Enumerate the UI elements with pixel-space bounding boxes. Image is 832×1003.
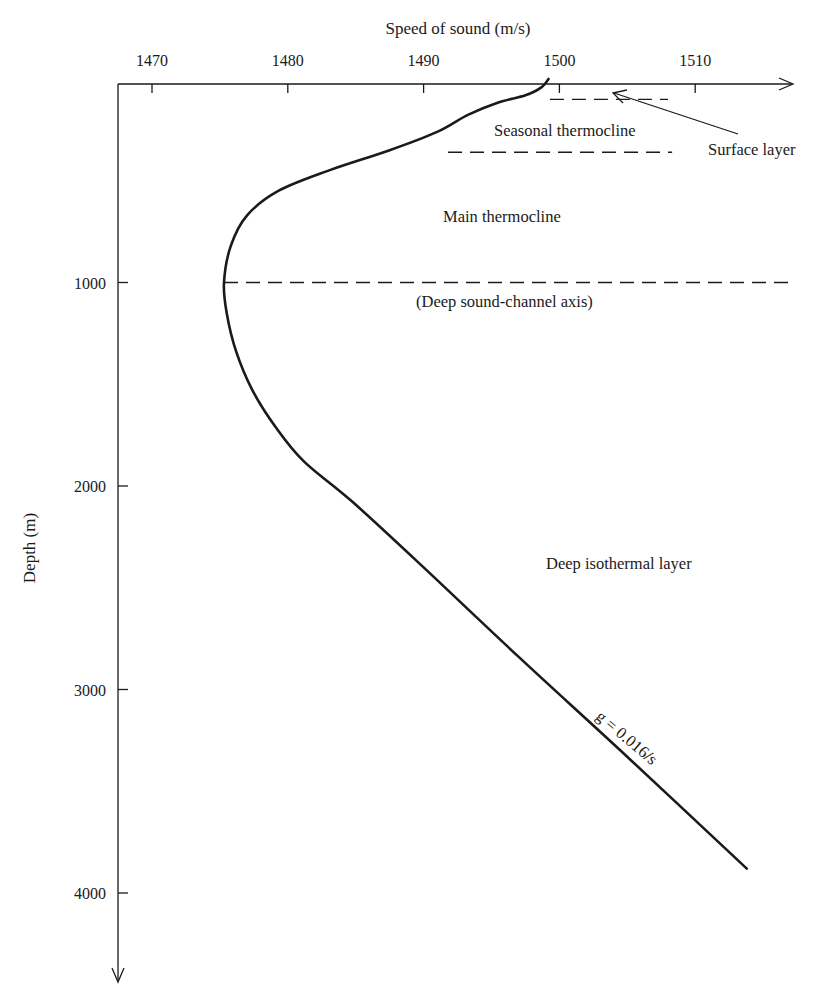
deep-channel-axis-label: (Deep sound-channel axis) bbox=[416, 292, 593, 311]
x-tick-label: 1510 bbox=[679, 52, 711, 69]
y-axis bbox=[112, 84, 124, 982]
x-tick-label: 1470 bbox=[136, 52, 168, 69]
y-axis-title: Depth (m) bbox=[20, 513, 39, 583]
x-tick-label: 1500 bbox=[543, 52, 575, 69]
x-tick-label: 1490 bbox=[408, 52, 440, 69]
x-tick-label: 1480 bbox=[272, 52, 304, 69]
seasonal-thermocline-label: Seasonal thermocline bbox=[494, 121, 636, 140]
deep-isothermal-label: Deep isothermal layer bbox=[546, 554, 692, 573]
gradient-label: g = 0.016/s bbox=[592, 707, 661, 769]
y-tick-label: 2000 bbox=[74, 478, 106, 495]
x-ticks: 14701480149015001510 bbox=[136, 52, 711, 93]
y-ticks: 1000200030004000 bbox=[74, 275, 128, 903]
y-tick-label: 3000 bbox=[74, 682, 106, 699]
x-axis-title: Speed of sound (m/s) bbox=[386, 19, 531, 38]
main-thermocline-label: Main thermocline bbox=[443, 207, 561, 226]
sound-speed-profile-chart: Speed of sound (m/s) Depth (m) 147014801… bbox=[0, 0, 832, 1003]
y-tick-label: 1000 bbox=[74, 275, 106, 292]
x-axis bbox=[118, 78, 793, 90]
surface-layer-label: Surface layer bbox=[708, 140, 796, 159]
sound-speed-curve bbox=[224, 79, 747, 869]
y-tick-label: 4000 bbox=[74, 885, 106, 902]
